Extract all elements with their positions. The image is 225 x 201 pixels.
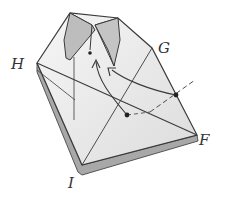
target-point (88, 51, 92, 55)
point-on-edge (174, 93, 179, 98)
label-g: G (158, 39, 170, 57)
label-f: F (198, 131, 210, 149)
label-h: H (10, 55, 25, 73)
origami-diagram: H G F I (0, 0, 225, 201)
label-i: I (67, 174, 75, 192)
point-on-diagonal (125, 113, 130, 118)
